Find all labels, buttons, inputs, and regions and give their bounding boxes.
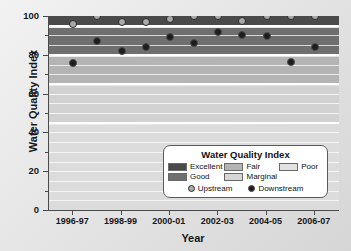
data-point-downstream [69,59,77,67]
y-tick-label: 80 [0,49,39,60]
legend-swatch-excellent [168,163,187,171]
y-tick-minor [45,152,48,153]
data-point-upstream [238,17,246,25]
y-tick-minor [45,113,48,114]
x-tick [266,210,267,215]
data-point-upstream [118,18,126,26]
gridline [49,35,339,36]
data-point-downstream [311,43,319,51]
legend-series-upstream: Upstream [188,184,233,193]
gridline [49,132,339,133]
legend-category-grid: ExcellentFairPoorGoodMarginal [168,162,323,181]
x-tick-label: 2006-07 [284,216,344,226]
gridline [49,113,339,114]
y-tick-label: 20 [0,165,39,176]
y-tick-label: 0 [0,204,39,215]
data-point-downstream [263,32,271,40]
legend-swatch-marginal [224,173,243,181]
y-axis-line [48,16,49,211]
legend-label: Good [190,172,210,181]
data-point-downstream [238,31,246,39]
gridline [49,103,339,104]
data-point-downstream [214,28,222,36]
gridline [49,74,339,75]
legend-swatch-poor [279,163,298,171]
legend-entry-good: Good [168,172,222,181]
water-quality-index-chart: Water Quality Index Year 020406080100 19… [0,0,351,251]
band-separator [49,83,339,85]
legend-swatch-good [168,173,187,181]
y-tick-label: 40 [0,126,39,137]
x-axis-title: Year [48,232,338,244]
y-tick [43,210,48,211]
chart-legend: Water Quality Index ExcellentFairPoorGoo… [163,145,328,198]
legend-series-label: Upstream [198,184,233,193]
data-point-upstream [142,18,150,26]
band-fair [49,57,339,84]
y-tick-minor [45,35,48,36]
legend-marker-upstream-icon [188,185,195,192]
y-tick [43,132,48,133]
x-axis-line [48,210,339,211]
x-tick [121,210,122,215]
y-axis-title: Water Quality Index [27,21,39,181]
y-tick [43,16,48,17]
data-point-downstream [142,43,150,51]
y-tick-minor [45,191,48,192]
legend-label: Excellent [190,162,222,171]
gridline [49,94,339,95]
gridline [49,200,339,201]
data-point-upstream [69,20,77,28]
legend-entry-marginal: Marginal [224,172,277,181]
data-point-downstream [93,37,101,45]
legend-label: Fair [246,162,260,171]
gridline [49,142,339,143]
x-tick [217,210,218,215]
band-separator [49,122,339,124]
legend-entry-poor: Poor [279,162,323,171]
y-tick-minor [45,74,48,75]
data-point-downstream [166,33,174,41]
legend-series-downstream: Downstream [248,184,303,193]
legend-title: Water Quality Index [168,149,323,160]
legend-entry-excellent: Excellent [168,162,222,171]
x-tick [72,210,73,215]
band-separator [49,25,339,27]
data-point-downstream [118,47,126,55]
legend-entry-fair: Fair [224,162,277,171]
legend-marker-downstream-icon [248,185,255,192]
legend-label: Marginal [246,172,277,181]
data-point-downstream [287,58,295,66]
y-tick-label: 100 [0,10,39,21]
x-tick [314,210,315,215]
y-tick [43,55,48,56]
legend-series-row: UpstreamDownstream [168,184,323,193]
y-tick [43,94,48,95]
legend-label: Poor [301,162,318,171]
legend-swatch-fair [224,163,243,171]
band-separator [49,54,339,56]
gridline [49,65,339,66]
x-tick [169,210,170,215]
y-tick [43,171,48,172]
y-tick-label: 60 [0,88,39,99]
data-point-downstream [190,39,198,47]
legend-series-label: Downstream [258,184,303,193]
